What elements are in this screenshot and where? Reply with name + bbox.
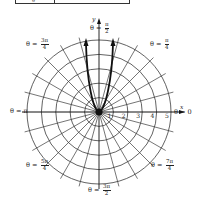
grid-radial-line bbox=[99, 92, 173, 112]
fraction-denominator: 4 bbox=[168, 166, 172, 172]
angle-label-prefix: θ = bbox=[174, 108, 188, 116]
polar-graph-figure: θ y x 12345 θ = 0θ = π4θ = π2θ = 3π4θ = … bbox=[0, 0, 204, 213]
angle-label-prefix: θ = bbox=[26, 40, 40, 48]
angle-label-prefix: θ = π bbox=[10, 107, 28, 115]
grid-radial-line bbox=[79, 38, 99, 112]
curve-arrow-icon bbox=[84, 38, 89, 46]
angle-label-theta-0: θ = 0 bbox=[174, 109, 192, 116]
angle-label-theta-3pi-2: θ = 3π2 bbox=[88, 184, 111, 197]
radius-tick-label: 4 bbox=[151, 113, 155, 119]
angle-fraction: 3π4 bbox=[41, 38, 49, 51]
radius-tick-label: 1 bbox=[107, 113, 111, 119]
angle-fraction: π2 bbox=[105, 22, 110, 35]
angle-fraction: π4 bbox=[165, 38, 170, 51]
angle-label-theta-pi-4: θ = π4 bbox=[150, 38, 169, 51]
grid-radial-line bbox=[99, 112, 119, 186]
grid-radial-line bbox=[99, 38, 119, 112]
grid-radial-line bbox=[25, 92, 99, 112]
grid-radial-line bbox=[25, 112, 99, 132]
angle-label-prefix: θ = bbox=[26, 161, 40, 169]
grid-radial-line bbox=[79, 112, 99, 186]
angle-fraction: 7π4 bbox=[166, 159, 174, 172]
angle-label-theta-7pi-4: θ = 7π4 bbox=[151, 159, 174, 172]
angle-value: 0 bbox=[188, 108, 192, 116]
fraction-denominator: 4 bbox=[165, 45, 169, 51]
radius-tick-label: 5 bbox=[165, 113, 169, 119]
y-axis-label: y bbox=[92, 15, 95, 22]
grid-radial-line bbox=[61, 112, 100, 179]
angle-label-prefix: θ = bbox=[151, 161, 165, 169]
fraction-denominator: 4 bbox=[43, 45, 47, 51]
angle-label-prefix: θ = bbox=[90, 24, 104, 32]
angle-label-theta-5pi-4: θ = 5π4 bbox=[26, 159, 49, 172]
angle-label-theta-pi: θ = π bbox=[10, 108, 28, 115]
fraction-denominator: 2 bbox=[105, 29, 109, 35]
angle-label-prefix: θ = bbox=[88, 186, 102, 194]
fraction-denominator: 4 bbox=[43, 166, 47, 172]
radius-tick-label: 2 bbox=[122, 113, 126, 119]
fraction-denominator: 2 bbox=[105, 191, 109, 197]
angle-label-prefix: θ = bbox=[150, 40, 164, 48]
angle-fraction: 5π4 bbox=[41, 159, 49, 172]
radius-tick-label: 3 bbox=[136, 113, 140, 119]
angle-fraction: 3π2 bbox=[103, 184, 111, 197]
grid-radial-line bbox=[32, 112, 99, 151]
angle-label-theta-3pi-4: θ = 3π4 bbox=[26, 38, 49, 51]
angle-label-theta-pi-2: θ = π2 bbox=[90, 22, 109, 35]
origin-point bbox=[96, 109, 103, 116]
grid-radial-line bbox=[99, 112, 138, 179]
grid-radial-line bbox=[99, 74, 166, 113]
